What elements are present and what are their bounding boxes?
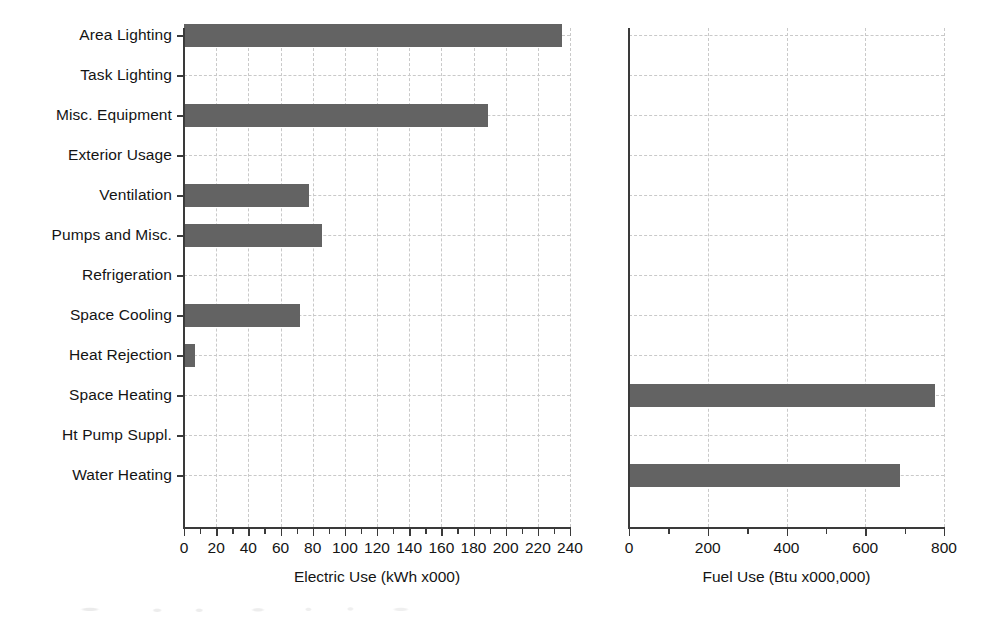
- x-axis-tick-major: [944, 529, 945, 536]
- gridline-horizontal: [184, 395, 570, 396]
- gridline-vertical: [787, 28, 788, 527]
- x-axis-tick-label: 0: [625, 540, 634, 556]
- x-axis-tick-minor: [457, 529, 458, 534]
- bar-space-cooling: [184, 304, 300, 327]
- gridline-horizontal: [629, 155, 944, 156]
- x-axis-tick-major: [570, 529, 571, 536]
- electric-axis-title: Electric Use (kWh x000): [294, 569, 460, 585]
- category-label: Heat Rejection: [0, 347, 172, 363]
- x-axis-tick-minor: [297, 529, 298, 534]
- x-axis-tick-minor: [329, 529, 330, 534]
- x-axis-tick-minor: [826, 529, 827, 534]
- bar-ventilation: [184, 184, 309, 207]
- x-axis-tick-major: [409, 529, 410, 536]
- gridline-horizontal: [184, 275, 570, 276]
- fuel-y-axis-line: [628, 28, 630, 528]
- x-axis-tick-label: 200: [493, 540, 519, 556]
- x-axis-tick-major: [506, 529, 507, 536]
- gridline-horizontal: [184, 355, 570, 356]
- x-axis-tick-major: [474, 529, 475, 536]
- gridline-horizontal: [184, 435, 570, 436]
- category-label: Refrigeration: [0, 267, 172, 283]
- category-axis-labels: Area LightingTask LightingMisc. Equipmen…: [0, 0, 172, 621]
- gridline-horizontal: [184, 475, 570, 476]
- x-axis-tick-label: 140: [396, 540, 422, 556]
- gridline-vertical: [708, 28, 709, 527]
- x-axis-tick-label: 0: [180, 540, 189, 556]
- x-axis-tick-major: [787, 529, 788, 536]
- y-axis-tick: [177, 115, 184, 117]
- y-axis-tick: [177, 195, 184, 197]
- y-axis-tick: [177, 435, 184, 437]
- gridline-horizontal: [629, 195, 944, 196]
- electric-plot-area: [184, 28, 570, 527]
- x-axis-tick-major: [377, 529, 378, 536]
- bar-misc-equipment: [184, 104, 488, 127]
- x-axis-tick-minor: [200, 529, 201, 534]
- gridline-horizontal: [629, 115, 944, 116]
- y-axis-tick: [177, 75, 184, 77]
- x-axis-tick-minor: [668, 529, 669, 534]
- gridline-horizontal: [629, 355, 944, 356]
- gridline-vertical: [506, 28, 507, 527]
- x-axis-tick-label: 40: [240, 540, 257, 556]
- bar-space-heating: [629, 384, 935, 407]
- y-axis-tick: [177, 315, 184, 317]
- gridline-horizontal: [629, 275, 944, 276]
- category-label: Exterior Usage: [0, 147, 172, 163]
- gridline-horizontal: [629, 235, 944, 236]
- gridline-horizontal: [629, 35, 944, 36]
- x-axis-tick-label: 180: [461, 540, 487, 556]
- x-axis-tick-minor: [905, 529, 906, 534]
- y-axis-tick: [177, 355, 184, 357]
- x-axis-tick-minor: [232, 529, 233, 534]
- y-axis-tick: [177, 155, 184, 157]
- category-label: Space Cooling: [0, 307, 172, 323]
- x-axis-tick-minor: [522, 529, 523, 534]
- x-axis-tick-major: [281, 529, 282, 536]
- category-label: Task Lighting: [0, 67, 172, 83]
- x-axis-tick-label: 100: [332, 540, 358, 556]
- x-axis-tick-major: [248, 529, 249, 536]
- fuel-plot-area: [629, 28, 944, 527]
- x-axis-tick-minor: [264, 529, 265, 534]
- y-axis-tick: [177, 235, 184, 237]
- bar-water-heating: [629, 464, 900, 487]
- x-axis-tick-minor: [425, 529, 426, 534]
- x-axis-tick-label: 20: [208, 540, 225, 556]
- category-label: Ventilation: [0, 187, 172, 203]
- x-axis-tick-label: 200: [695, 540, 721, 556]
- bar-area-lighting: [184, 24, 562, 47]
- fuel-axis-title: Fuel Use (Btu x000,000): [702, 569, 870, 585]
- y-axis-tick: [177, 475, 184, 477]
- gridline-vertical: [944, 28, 945, 527]
- x-axis-tick-major: [629, 529, 630, 536]
- x-axis-tick-label: 600: [852, 540, 878, 556]
- x-axis-tick-minor: [361, 529, 362, 534]
- y-axis-tick: [177, 275, 184, 277]
- x-axis-tick-minor: [393, 529, 394, 534]
- y-axis-tick: [177, 395, 184, 397]
- x-axis-tick-minor: [554, 529, 555, 534]
- x-axis-tick-minor: [747, 529, 748, 534]
- x-axis-tick-label: 120: [364, 540, 390, 556]
- x-axis-tick-major: [216, 529, 217, 536]
- x-axis-tick-major: [184, 529, 185, 536]
- x-axis-tick-label: 80: [304, 540, 321, 556]
- bar-heat-rejection: [184, 344, 195, 367]
- gridline-horizontal: [184, 155, 570, 156]
- x-axis-tick-label: 220: [525, 540, 551, 556]
- x-axis-tick-label: 240: [557, 540, 583, 556]
- x-axis-tick-label: 400: [774, 540, 800, 556]
- x-axis-tick-major: [345, 529, 346, 536]
- category-label: Water Heating: [0, 467, 172, 483]
- gridline-vertical: [538, 28, 539, 527]
- gridline-horizontal: [629, 315, 944, 316]
- category-label: Space Heating: [0, 387, 172, 403]
- category-label: Area Lighting: [0, 27, 172, 43]
- electric-y-axis-line: [183, 28, 185, 528]
- x-axis-tick-major: [708, 529, 709, 536]
- y-axis-tick: [177, 35, 184, 37]
- gridline-vertical: [570, 28, 571, 527]
- x-axis-tick-label: 160: [428, 540, 454, 556]
